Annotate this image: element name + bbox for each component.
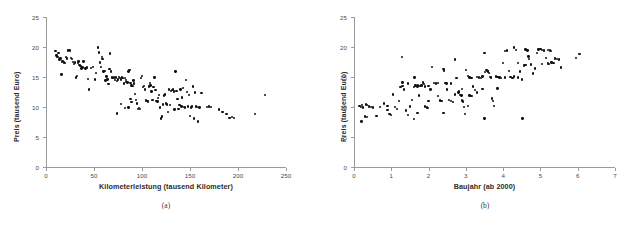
data-point <box>502 62 504 64</box>
y-tick-mark <box>43 107 46 108</box>
data-point <box>109 52 111 54</box>
data-point <box>403 88 405 90</box>
y-tick-mark <box>43 77 46 78</box>
data-point <box>392 93 394 95</box>
data-point <box>184 106 186 108</box>
data-point <box>175 90 177 92</box>
x-tick-mark <box>540 168 541 171</box>
data-point <box>177 108 179 110</box>
data-point <box>455 77 457 79</box>
data-point <box>575 57 577 59</box>
data-point <box>193 117 195 119</box>
data-point <box>100 66 102 68</box>
data-point <box>179 88 181 90</box>
data-point <box>431 66 433 68</box>
data-point <box>424 85 426 87</box>
data-point <box>437 95 439 97</box>
data-point <box>558 58 560 60</box>
data-point <box>465 69 467 71</box>
data-point <box>200 92 202 94</box>
x-tick-label: 1 <box>380 172 402 179</box>
data-point <box>120 103 122 105</box>
data-point <box>143 85 145 87</box>
panel-a-x-axis-label: Kilometerleistung (tausend Kilometer) <box>46 182 286 191</box>
data-point <box>166 103 168 105</box>
data-point <box>427 107 429 109</box>
y-tick-mark <box>351 137 354 138</box>
data-point <box>64 62 66 64</box>
data-point <box>552 62 554 64</box>
data-point <box>413 118 415 120</box>
y-tick-label: 25 <box>331 14 347 21</box>
data-point <box>162 103 164 105</box>
data-point <box>141 75 143 77</box>
data-point <box>470 77 472 79</box>
x-tick-mark <box>391 168 392 171</box>
data-point <box>94 78 96 80</box>
data-point <box>98 51 100 53</box>
y-tick-label: 15 <box>23 74 39 81</box>
data-point <box>107 83 109 85</box>
data-point <box>99 61 101 63</box>
data-point <box>483 117 485 119</box>
data-point <box>396 108 398 110</box>
data-point <box>521 78 523 80</box>
panel-b: Preis (tausend Euro) Baujahr (ab 2000) (… <box>318 0 637 226</box>
data-point <box>454 58 456 60</box>
data-point <box>161 115 163 117</box>
y-tick-mark <box>351 77 354 78</box>
data-point <box>545 57 547 59</box>
data-point <box>508 70 510 72</box>
data-point <box>443 69 445 71</box>
data-point <box>264 94 266 96</box>
data-point <box>429 88 431 90</box>
panel-b-x-axis-line <box>354 167 615 168</box>
y-tick-label: 0 <box>331 164 347 171</box>
data-point <box>446 88 448 90</box>
data-point <box>460 94 462 96</box>
data-point <box>198 106 200 108</box>
data-point <box>82 60 84 62</box>
data-point <box>405 109 407 111</box>
data-point <box>532 72 534 74</box>
data-point <box>490 76 492 78</box>
data-point <box>401 81 403 83</box>
data-point <box>547 63 549 65</box>
data-point <box>519 70 521 72</box>
data-point <box>136 102 138 104</box>
x-tick-mark <box>238 168 239 171</box>
data-point <box>445 82 447 84</box>
data-point <box>130 101 132 103</box>
data-point <box>401 85 403 87</box>
data-point <box>462 100 464 102</box>
panel-b-x-axis-label: Baujahr (ab 2000) <box>354 182 615 191</box>
data-point <box>437 82 439 84</box>
data-point <box>69 49 71 51</box>
data-point <box>461 88 463 90</box>
data-point <box>221 111 223 113</box>
data-point <box>442 112 444 114</box>
data-point <box>140 77 142 79</box>
panel-a-y-axis-label: Preis (tausend Euro) <box>13 72 20 142</box>
data-point <box>185 79 187 81</box>
y-tick-mark <box>43 137 46 138</box>
data-point <box>409 105 411 107</box>
data-point <box>159 106 161 108</box>
data-point <box>496 87 498 89</box>
data-point <box>71 58 73 60</box>
data-point <box>543 49 545 51</box>
data-point <box>550 50 552 52</box>
panel-b-caption: (b) <box>465 201 505 210</box>
x-tick-label: 200 <box>227 172 249 179</box>
data-point <box>124 107 126 109</box>
x-tick-label: 3 <box>455 172 477 179</box>
y-tick-mark <box>351 107 354 108</box>
data-point <box>513 75 515 77</box>
data-point <box>418 94 420 96</box>
data-point <box>233 117 235 119</box>
panel-a-x-axis-line <box>46 167 286 168</box>
data-point <box>187 105 189 107</box>
data-point <box>254 113 256 115</box>
data-point <box>463 106 465 108</box>
data-point <box>147 100 149 102</box>
